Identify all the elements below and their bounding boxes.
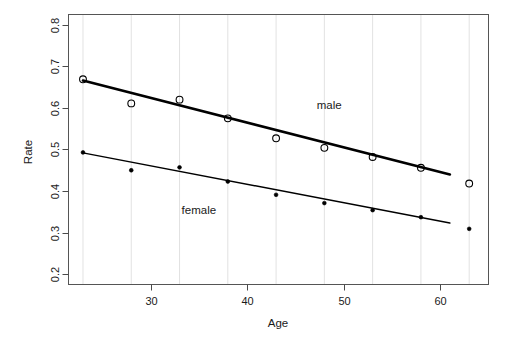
- y-tick-label-0.7: 0.7: [49, 59, 61, 74]
- x-tick-label-30: 30: [145, 295, 157, 307]
- x-tick-label-50: 50: [338, 295, 350, 307]
- point-female-age-58: [419, 215, 423, 219]
- point-female-age-33: [178, 165, 182, 169]
- point-female-age-38: [226, 180, 230, 184]
- x-tick-label-40: 40: [241, 295, 253, 307]
- y-tick-label-0.3: 0.3: [49, 226, 61, 241]
- point-female-age-53: [371, 208, 375, 212]
- point-female-age-28: [129, 168, 133, 172]
- x-tick-label-60: 60: [434, 295, 446, 307]
- plot-canvas: 30405060 0.20.30.40.50.60.70.8 malefemal…: [0, 0, 514, 344]
- rate-vs-age-scatter-chart: 30405060 0.20.30.40.50.60.70.8 malefemal…: [0, 0, 514, 344]
- point-female-age-48: [322, 201, 326, 205]
- annotation-male: male: [317, 99, 342, 111]
- point-female-age-43: [274, 193, 278, 197]
- annotation-female: female: [182, 204, 217, 216]
- x-axis-title: Age: [268, 317, 288, 329]
- y-tick-label-0.2: 0.2: [49, 267, 61, 282]
- y-tick-label-0.6: 0.6: [49, 101, 61, 116]
- y-tick-label-0.4: 0.4: [49, 184, 61, 199]
- y-axis-title: Rate: [22, 140, 34, 164]
- y-tick-label-0.8: 0.8: [49, 18, 61, 33]
- y-tick-label-0.5: 0.5: [49, 142, 61, 157]
- point-female-age-23: [81, 151, 85, 155]
- point-female-age-63: [467, 227, 471, 231]
